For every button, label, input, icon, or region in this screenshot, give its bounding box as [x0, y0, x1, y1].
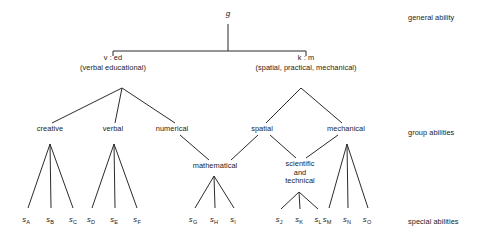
edge-verbal-sf [114, 144, 137, 208]
edge-ved-verbal [115, 88, 122, 123]
edge-mechanical-sm [329, 144, 347, 208]
node-spatial: spatial [251, 125, 273, 134]
edge-scientific-sj [281, 192, 299, 209]
row-label-general-ability: general ability [408, 14, 454, 23]
leaf-label-s-l: sL [314, 216, 321, 225]
node-mathematical: mathematical [193, 162, 238, 171]
edge-scientific-sl [299, 192, 318, 209]
edge-ved-creative [52, 88, 122, 123]
edge-creative-sa [28, 144, 50, 208]
leaf-label-s-e: sE [110, 216, 118, 225]
leaf-label-s-c: sC [69, 216, 77, 225]
leaf-label-s-n: sN [343, 216, 351, 225]
edge-mathematical-sh [214, 176, 215, 208]
edge-scientific-sk [299, 192, 300, 209]
leaf-subscript: E [114, 219, 118, 225]
node-spatial-mechanical: k : m [298, 54, 314, 63]
edge-spatial-scientific [270, 135, 296, 158]
node-spatial-mechanical-expansion: (spatial, practical, mechanical) [255, 64, 356, 73]
edge-creative-sb [50, 144, 51, 208]
row-label-special-abilities: special abilities [408, 218, 459, 227]
edge-numerical-mathematical [180, 135, 209, 160]
leaf-label-s-i: sI [230, 216, 235, 225]
leaf-subscript: K [299, 219, 303, 225]
leaf-subscript: B [50, 219, 54, 225]
edge-mathematical-si [214, 176, 234, 208]
leaf-subscript: M [327, 219, 332, 225]
node-numerical: numerical [156, 125, 189, 134]
leaf-subscript: L [319, 219, 322, 225]
node-mechanical: mechanical [327, 125, 365, 134]
leaf-subscript: D [91, 219, 95, 225]
edge-verbal-sd [92, 144, 114, 208]
leaf-label-s-d: sD [87, 216, 95, 225]
edge-spatial-mathematical [231, 135, 258, 160]
node-scientific-and-technical-line-3: technical [277, 177, 323, 186]
leaf-label-s-g: sG [189, 216, 197, 225]
leaf-subscript: I [234, 219, 236, 225]
edge-mechanical-sn [347, 144, 348, 208]
edge-verbal-se [114, 144, 115, 208]
leaf-label-s-a: sA [22, 216, 30, 225]
diagram-canvas: g v : ed (verbal educational) k : m (spa… [0, 0, 482, 240]
leaf-label-s-j: sJ [276, 216, 283, 225]
row-label-group-abilities: group abilities [408, 129, 454, 138]
leaf-subscript: A [26, 219, 30, 225]
hierarchy-tree-edges [0, 0, 482, 240]
leaf-subscript: F [137, 219, 140, 225]
edge-mechanical-so [347, 144, 368, 208]
edge-km-spatial [266, 88, 301, 123]
node-verbal-educational-expansion: (verbal educational) [80, 64, 146, 73]
leaf-subscript: J [280, 219, 283, 225]
node-root-general-ability: g [226, 10, 231, 19]
leaf-label-s-k: sK [295, 216, 303, 225]
leaf-subscript: N [347, 219, 351, 225]
edge-km-mechanical [301, 88, 342, 123]
leaf-subscript: C [73, 219, 77, 225]
leaf-label-s-m: sM [323, 216, 332, 225]
node-verbal-educational: v : ed [104, 54, 122, 63]
edge-mechanical-scientific [306, 135, 338, 158]
leaf-subscript: H [214, 219, 218, 225]
edge-ved-numerical [122, 88, 175, 123]
node-scientific-and-technical: scientific and technical [277, 160, 323, 186]
edge-creative-sc [50, 144, 73, 208]
leaf-label-s-o: sO [363, 216, 371, 225]
leaf-label-s-f: sF [133, 216, 140, 225]
edge-mathematical-sg [195, 176, 214, 208]
node-creative: creative [37, 125, 63, 134]
leaf-subscript: O [367, 219, 371, 225]
leaf-label-s-h: sH [210, 216, 218, 225]
leaf-subscript: G [193, 219, 197, 225]
node-verbal: verbal [103, 125, 123, 134]
leaf-label-s-b: sB [46, 216, 54, 225]
